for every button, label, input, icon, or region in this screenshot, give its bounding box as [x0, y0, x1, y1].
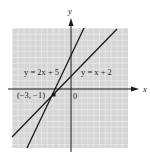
intersection-label: (−3, −1)	[17, 90, 45, 100]
grid-area	[12, 28, 128, 148]
origin-label: 0	[73, 91, 77, 101]
line2-label: y = x + 2	[81, 67, 112, 77]
x-axis-label: x	[142, 84, 147, 94]
y-axis-label: y	[67, 6, 72, 16]
x-axis-arrow-icon	[131, 87, 139, 92]
graph: y x 0 y = 2x + 5 y = x + 2 (−3, −1)	[0, 0, 150, 155]
line1-label: y = 2x + 5	[24, 67, 59, 77]
intersection-point-marker	[52, 93, 56, 97]
y-axis-arrow-icon	[69, 18, 74, 26]
